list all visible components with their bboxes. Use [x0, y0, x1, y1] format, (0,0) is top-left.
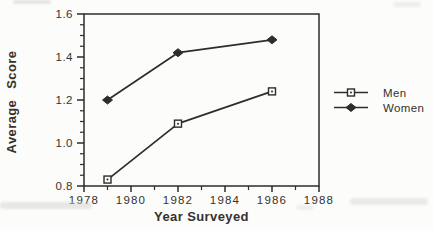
data-marker-men-dot — [177, 123, 179, 125]
legend-marker-glyph — [346, 104, 356, 112]
y-tick-label: 1.6 — [56, 8, 74, 20]
scan-artifact — [393, 2, 421, 7]
x-tick-label: 1980 — [116, 194, 146, 206]
scan-artifact — [0, 202, 92, 209]
scan-artifact — [296, 205, 314, 210]
series-women — [103, 36, 278, 104]
legend-entry-men: Men — [334, 85, 424, 100]
chart-canvas: 0.81.01.21.41.6197819801982198419861988 — [0, 0, 433, 231]
data-marker-women — [267, 36, 277, 44]
scan-artifact — [13, 0, 51, 4]
y-tick-label: 1.4 — [56, 51, 74, 63]
series-men — [104, 88, 276, 183]
legend-marker-men — [334, 85, 368, 100]
x-tick-label: 1986 — [257, 194, 287, 206]
legend-marker-women — [334, 100, 368, 115]
legend-marker-glyph-dot — [350, 92, 352, 94]
scanned-line-chart: 0.81.01.21.41.6197819801982198419861988 … — [0, 0, 433, 231]
x-tick-label: 1982 — [163, 194, 193, 206]
series-line-women — [108, 40, 273, 100]
y-tick-label: 1.2 — [56, 94, 74, 106]
legend-entry-women: Women — [334, 100, 424, 115]
plot-border — [84, 14, 319, 186]
scan-artifact — [350, 198, 428, 205]
x-tick-label: 1984 — [210, 194, 240, 206]
data-marker-men-dot — [271, 90, 273, 92]
legend: Men Women — [334, 85, 424, 115]
data-marker-men-dot — [107, 179, 109, 181]
legend-label-men: Men — [383, 87, 407, 99]
legend-label-women: Women — [383, 102, 424, 114]
y-tick-label: 1.0 — [56, 137, 74, 149]
series-line-men — [108, 91, 273, 179]
x-axis-title: Year Surveyed — [84, 209, 319, 224]
y-tick-label: 0.8 — [56, 180, 74, 192]
y-axis-title: Average Score — [4, 42, 20, 162]
